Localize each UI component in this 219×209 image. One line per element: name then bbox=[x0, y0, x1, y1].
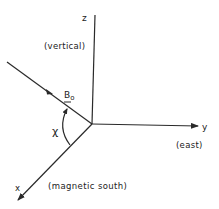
field-vector-arrow-icon bbox=[46, 89, 53, 95]
angle-arc bbox=[63, 109, 70, 145]
angle-label: χ bbox=[52, 125, 59, 138]
y-axis-description: (east) bbox=[176, 140, 203, 150]
y-axis-label: y bbox=[202, 122, 208, 132]
z-axis-description: (vertical) bbox=[44, 41, 85, 51]
x-axis-description: (magnetic south) bbox=[48, 181, 127, 191]
z-axis bbox=[92, 15, 95, 124]
x-axis-label: x bbox=[15, 183, 20, 193]
y-axis bbox=[92, 124, 198, 126]
z-axis-label: z bbox=[82, 13, 87, 23]
field-vector-label: Bo bbox=[64, 90, 74, 102]
coordinate-diagram: z (vertical) y (east) x (magnetic south)… bbox=[0, 0, 219, 209]
